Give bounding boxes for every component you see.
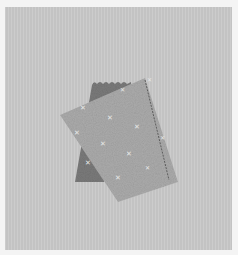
svg-text:✕: ✕ [74, 129, 80, 137]
svg-text:✕: ✕ [145, 164, 150, 171]
svg-text:✕: ✕ [147, 76, 152, 83]
svg-text:✕: ✕ [107, 114, 113, 122]
svg-text:✕: ✕ [115, 174, 121, 182]
svg-text:✕: ✕ [134, 123, 140, 131]
svg-text:✕: ✕ [85, 159, 91, 167]
fabric-scene: ✕ ✕ ✕ ✕ ✕ ✕ ✕ ✕ ✕ ✕ ✕ ✕ [0, 0, 238, 255]
light-fabric-piece: ✕ ✕ ✕ ✕ ✕ ✕ ✕ ✕ ✕ ✕ ✕ ✕ [60, 76, 178, 202]
svg-text:✕: ✕ [120, 86, 125, 93]
svg-text:✕: ✕ [100, 140, 106, 148]
svg-text:✕: ✕ [126, 150, 132, 158]
svg-text:✕: ✕ [160, 134, 165, 141]
svg-text:✕: ✕ [80, 104, 86, 112]
